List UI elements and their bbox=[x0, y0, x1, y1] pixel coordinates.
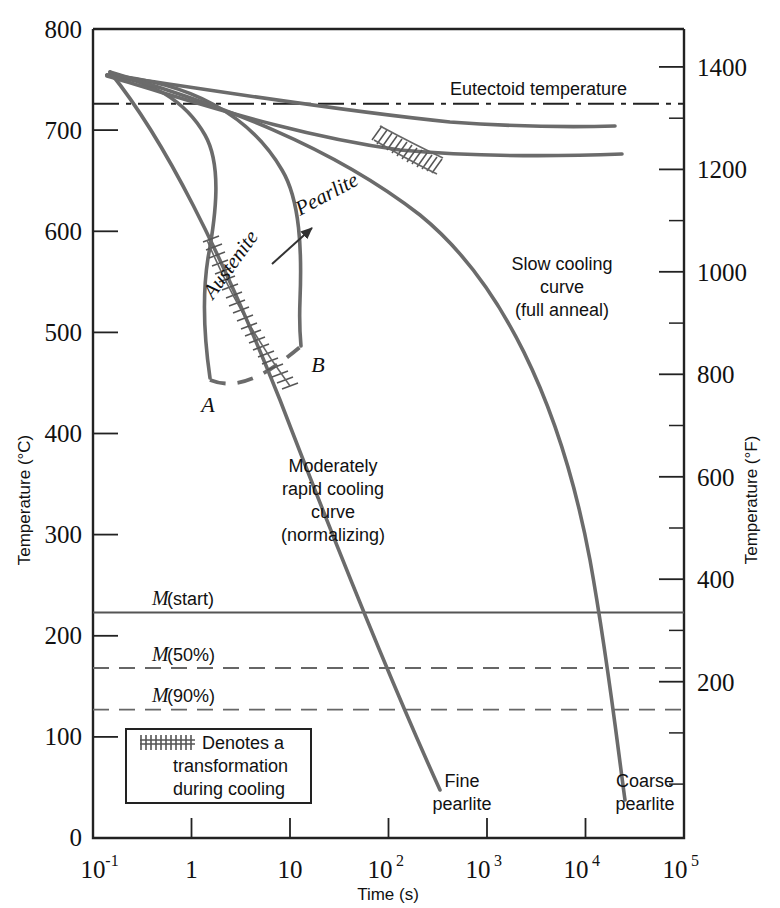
svg-text:(90%): (90%) bbox=[167, 686, 215, 706]
svg-text:Fine: Fine bbox=[444, 771, 479, 791]
svg-text:rapid cooling: rapid cooling bbox=[282, 479, 384, 499]
svg-text:Coarse: Coarse bbox=[616, 771, 674, 791]
y-left-tick-800: 800 bbox=[45, 16, 83, 43]
y-right-tick-600: 600 bbox=[697, 464, 735, 491]
eutectoid-temperature-label: Eutectoid temperature bbox=[450, 79, 627, 99]
y-left-tick-600: 600 bbox=[45, 218, 83, 245]
svg-text:curve: curve bbox=[540, 277, 584, 297]
y-axis-left-title: Temperature (°C) bbox=[15, 435, 34, 566]
y-right-tick-200: 200 bbox=[697, 669, 735, 696]
y-left-tick-0: 0 bbox=[70, 824, 83, 851]
m-90-percent-label: M (90%) bbox=[151, 684, 215, 706]
point-a-label: A bbox=[199, 392, 215, 417]
svg-text:10: 10 bbox=[368, 856, 393, 883]
x-tick-10: 10 bbox=[278, 856, 303, 883]
svg-text:(50%): (50%) bbox=[167, 645, 215, 665]
x-tick-1: 1 bbox=[185, 856, 198, 883]
y-right-tick-800: 800 bbox=[697, 361, 735, 388]
ttt-diagram-figure: 800 700 600 500 400 200 300 100 0 Temper… bbox=[0, 0, 780, 908]
point-b-label: B bbox=[311, 352, 324, 377]
svg-text:-1: -1 bbox=[105, 852, 118, 869]
svg-text:5: 5 bbox=[691, 852, 699, 869]
svg-text:(normalizing): (normalizing) bbox=[281, 525, 385, 545]
svg-text:pearlite: pearlite bbox=[615, 794, 674, 814]
svg-text:(full anneal): (full anneal) bbox=[515, 300, 609, 320]
y-axis-left-tick-labels: 800 700 600 500 400 200 300 100 0 bbox=[45, 16, 83, 851]
svg-text:4: 4 bbox=[592, 852, 600, 869]
y-right-tick-1200: 1200 bbox=[697, 156, 747, 183]
svg-text:10: 10 bbox=[564, 856, 589, 883]
y-left-tick-100: 100 bbox=[45, 723, 83, 750]
y-left-tick-400: 400 bbox=[45, 420, 83, 447]
svg-text:pearlite: pearlite bbox=[432, 794, 491, 814]
svg-text:Slow cooling: Slow cooling bbox=[511, 254, 612, 274]
legend-line-2: transformation bbox=[173, 756, 288, 776]
y-left-tick-200: 200 bbox=[45, 622, 83, 649]
y-right-tick-1400: 1400 bbox=[697, 54, 747, 81]
y-left-tick-700: 700 bbox=[45, 117, 83, 144]
svg-text:10: 10 bbox=[663, 856, 688, 883]
y-left-tick-500: 500 bbox=[45, 319, 83, 346]
x-axis-title: Time (s) bbox=[357, 885, 419, 904]
legend-line-3: during cooling bbox=[173, 779, 285, 799]
svg-text:(start): (start) bbox=[167, 589, 214, 609]
svg-text:Moderately: Moderately bbox=[288, 456, 377, 476]
y-left-tick-300: 300 bbox=[45, 521, 83, 548]
legend-box: Denotes a transformation during cooling bbox=[126, 729, 311, 803]
svg-text:10: 10 bbox=[466, 856, 491, 883]
y-right-tick-1000: 1000 bbox=[697, 259, 747, 286]
m-start-label: M (start) bbox=[151, 587, 214, 609]
y-right-tick-400: 400 bbox=[697, 566, 735, 593]
svg-text:3: 3 bbox=[494, 852, 502, 869]
legend-line-1: Denotes a bbox=[202, 733, 285, 753]
svg-text:2: 2 bbox=[396, 852, 404, 869]
m-50-percent-label: M (50%) bbox=[151, 643, 215, 665]
svg-text:curve: curve bbox=[311, 502, 355, 522]
svg-text:10: 10 bbox=[81, 856, 106, 883]
y-axis-right-title: Temperature (°F) bbox=[742, 436, 761, 565]
